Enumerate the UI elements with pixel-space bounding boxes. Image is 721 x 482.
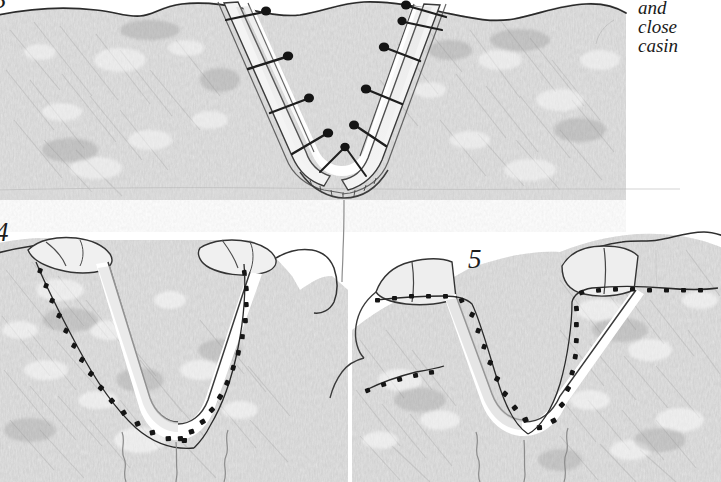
figure-3-number-label: 3 (0, 0, 7, 13)
caption-line-3: casin (638, 36, 721, 55)
illustration-plate (0, 0, 721, 482)
figure-4-number-label: 4 (0, 219, 9, 246)
figure-5-number-label: 5 (468, 246, 482, 273)
caption-line-2: close (638, 17, 721, 36)
caption-line-1: and (638, 0, 721, 17)
caption-text-block: and close casin (638, 0, 721, 55)
figure-3-lower-tissue (0, 186, 640, 234)
